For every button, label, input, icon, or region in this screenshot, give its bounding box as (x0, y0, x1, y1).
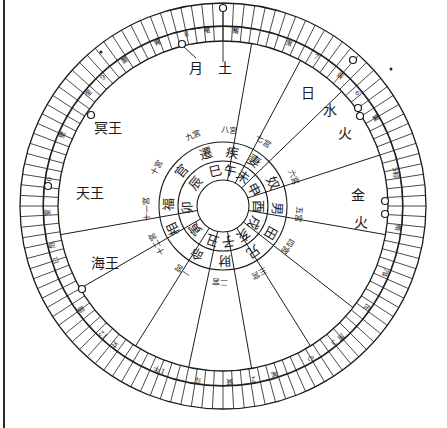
planet-label: 火 (354, 214, 368, 230)
horoscope-chart: 巳午未申酉戌亥子丑寅卯辰 遷疾妻奴男田兄財命相福官 九宮八宮七宮六宮五宮四宮三宮… (0, 0, 447, 428)
degree-tick (232, 371, 234, 409)
degree-tick (181, 367, 189, 404)
degree-tick (388, 195, 426, 197)
degree-tick (266, 10, 276, 47)
lunar-mansion-label: 7 (312, 53, 320, 62)
degree-tick (274, 363, 286, 399)
degree-tick (47, 105, 80, 124)
degree-tick (257, 367, 265, 404)
house-number-note: 十二宮 (146, 231, 167, 257)
degree-tick (22, 174, 60, 180)
degree-tick (384, 240, 421, 248)
planet-marker-circle (179, 41, 186, 48)
planet-marker-circle (79, 286, 86, 293)
degree-tick (42, 281, 76, 298)
planet-label: 水 (323, 102, 337, 118)
degree-tick (382, 153, 419, 163)
degree-tick (72, 316, 100, 341)
degree-tick (87, 55, 112, 83)
planet-label: 海王 (91, 255, 119, 271)
degree-tick (42, 114, 76, 131)
house-name-label: 財 (218, 253, 232, 268)
ring-circle (58, 41, 388, 371)
degree-tick (298, 25, 315, 59)
degree-tick (170, 365, 180, 402)
degree-tick (388, 215, 426, 217)
degree-tick (387, 185, 425, 189)
planet-marker-circle (350, 57, 357, 64)
degree-tick (27, 153, 64, 163)
lunar-mansion-label: 壁 (57, 129, 68, 139)
house-cusp-line (80, 219, 200, 289)
degree-tick (346, 316, 374, 341)
house-name-label: 遷 (198, 145, 215, 163)
degree-tick (21, 223, 59, 227)
planet-label: 冥王 (94, 120, 122, 136)
house-name-label: 奴 (263, 174, 282, 192)
lunar-mansion-label: 危 (46, 241, 56, 250)
degree-tick (21, 185, 59, 189)
house-number-note: 八宮 (221, 124, 238, 135)
planet-marker-circle (382, 211, 389, 218)
degree-tick (232, 3, 234, 41)
house-number-note: 二宮 (212, 277, 228, 288)
house-name-label: 男 (270, 202, 286, 216)
earthly-branch-label: 巳 (207, 163, 223, 181)
earthly-branch-label: 子 (220, 233, 235, 250)
planet-marker-circle (357, 113, 364, 120)
house-number-note: 五宮 (293, 206, 305, 223)
degree-tick (257, 7, 265, 44)
lunar-mansion-label: 奎 (82, 87, 93, 98)
lunar-mansion-label: 觜 (231, 26, 239, 35)
house-number-note: 九宮 (184, 128, 203, 143)
lunar-mansion-label: 角 (393, 223, 403, 231)
earthly-branch-label: 酉 (251, 200, 266, 213)
house-number-note: 一宮 (173, 262, 192, 279)
planet-marker-circle (220, 5, 227, 12)
degree-tick (170, 10, 180, 47)
planet-label: 金 (351, 187, 365, 203)
degree-tick (212, 3, 214, 41)
degree-tick (24, 164, 61, 172)
degree-tick (212, 371, 214, 409)
degree-tick (380, 143, 416, 155)
planet-label: 月 (189, 60, 203, 76)
degree-tick (202, 4, 206, 42)
lunar-mansion-label: 斗 (195, 375, 203, 384)
lunar-mansion-label: 室 (42, 208, 51, 215)
degree-tick (191, 5, 197, 43)
degree-tick (351, 310, 381, 334)
house-number-note: 三宮 (250, 265, 269, 281)
earthly-branch-ring: 巳午未申酉戌亥子丑寅卯辰 (180, 163, 266, 250)
degree-tick (47, 289, 80, 308)
lunar-mansion-label: 11 (51, 255, 61, 266)
lunar-mansion-label: 心 (306, 353, 316, 363)
degree-tick (240, 370, 244, 408)
lunar-mansion-label: 鬼 (284, 37, 294, 48)
stray-marks (100, 51, 393, 71)
degree-tick (382, 249, 419, 259)
planet-marker-circle (355, 105, 362, 112)
degree-tick (20, 195, 58, 197)
degree-tick (30, 143, 66, 155)
degree-tick (386, 174, 424, 180)
planet-marker-circle (382, 198, 389, 205)
lunar-mansion-label: 8 (183, 30, 189, 39)
house-name-label: 疾 (225, 144, 240, 161)
ink-speck (390, 68, 393, 71)
lunar-mansion-label: 尾 (270, 369, 279, 379)
house-name-label: 相 (164, 220, 183, 238)
planet-label: 火 (338, 125, 352, 141)
degree-tick (366, 105, 399, 124)
degree-tick (249, 5, 255, 43)
planet-marker-circle (88, 112, 95, 119)
house-number-note: 四宮 (279, 237, 296, 256)
ink-speck (100, 51, 103, 54)
degree-tick (95, 48, 119, 78)
planet-label: 日 (301, 85, 315, 101)
degree-tick (202, 370, 206, 408)
lunar-mansion-label: 婁 (119, 54, 130, 65)
degree-tick (370, 281, 404, 298)
degree-tick (351, 78, 381, 102)
house-name-label: 福 (161, 197, 176, 211)
